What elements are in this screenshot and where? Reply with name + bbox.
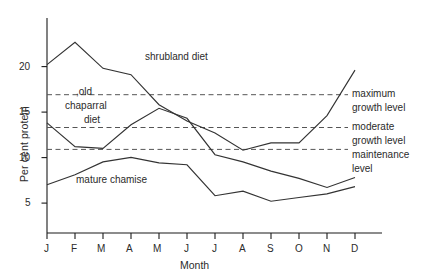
y-tick-label-20: 20 — [19, 61, 30, 73]
x-tick-label-oct: O — [295, 243, 303, 255]
chart-figure: Per cent protein 5 10 15 20 J F M A M J … — [0, 0, 441, 279]
x-axis-title: Month — [180, 259, 209, 271]
x-tick-label-nov: N — [323, 243, 330, 255]
x-tick-label-jul: J — [212, 243, 217, 255]
reference-label-maximum-growth-level-line1: maximum — [352, 88, 395, 100]
x-tick-label-aug: A — [239, 243, 246, 255]
x-tick-label-dec: D — [351, 243, 358, 255]
reference-label-moderate-growth-level-line1: moderate — [352, 121, 394, 133]
reference-label-maintenance-level-line1: maintenance — [352, 149, 409, 161]
reference-label-maintenance-level-line2: level — [352, 163, 373, 175]
reference-label-maximum-growth-level-line2: growth level — [352, 102, 405, 114]
y-tick-label-5: 5 — [25, 197, 31, 209]
series-label-old-chaparral-line1: ,old — [76, 86, 92, 98]
series-label-mature-chamise: mature chamise — [76, 174, 147, 186]
x-tick-label-apr: A — [126, 243, 133, 255]
x-tick-label-jun: J — [184, 243, 189, 255]
x-tick-label-jan: J — [44, 243, 49, 255]
x-tick-label-sep: S — [267, 243, 274, 255]
x-tick-label-feb: F — [71, 243, 77, 255]
x-axis-ticks — [47, 233, 355, 239]
series-label-shrubland-diet: shrubland diet — [145, 51, 208, 63]
series-label-old-chaparral-line3: diet — [84, 114, 100, 126]
series-label-old-chaparral-line2: chaparral — [65, 100, 107, 112]
x-tick-label-may: M — [153, 243, 161, 255]
y-tick-label-15: 15 — [19, 106, 30, 118]
reference-label-moderate-growth-level-line2: growth level — [352, 135, 405, 147]
y-axis-ticks — [42, 67, 48, 204]
x-tick-label-mar: M — [97, 243, 105, 255]
y-tick-label-10: 10 — [19, 152, 30, 164]
